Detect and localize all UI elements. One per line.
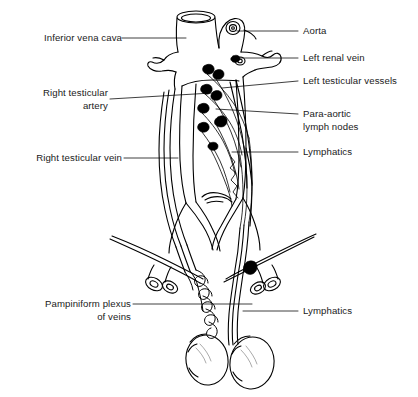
label-line: Aorta	[303, 24, 326, 37]
testes-shading	[196, 344, 257, 367]
label-line: artery	[8, 99, 108, 112]
testis-right	[227, 334, 278, 392]
label-left-renal-vein: Left renal vein	[303, 51, 365, 64]
label-line: Lymphatics	[303, 304, 352, 317]
label-line: lymph nodes	[303, 120, 359, 133]
label-line: Right testicular	[8, 86, 108, 99]
label-line: Lymphatics	[303, 145, 352, 158]
label-left-testicular-vessels: Left testicular vessels	[303, 74, 397, 87]
label-para-aortic-lymph-nodes: Para-aortic lymph nodes	[303, 107, 359, 133]
right-testicular-vein-a	[164, 90, 181, 246]
leader-para-aortic-lymph-nodes	[216, 109, 298, 114]
testis-left	[183, 332, 232, 387]
anatomical-figure-page: Inferior vena cava Right testicular arte…	[0, 0, 418, 397]
inguinal-ligaments	[110, 234, 316, 283]
left-renal-vein	[235, 51, 281, 77]
leader-right-testicular-artery	[110, 93, 212, 99]
label-right-testicular-vein: Right testicular vein	[8, 151, 122, 164]
label-line: Para-aortic	[303, 107, 359, 120]
right-testicular-vessels	[159, 89, 187, 247]
label-pampiniform-plexus-of-veins: Pampiniform plexus of veins	[8, 297, 131, 323]
label-line: Pampiniform plexus	[8, 297, 131, 310]
label-line: Left renal vein	[303, 51, 365, 64]
inguinal-ligament-left	[112, 236, 203, 279]
aorta	[219, 19, 256, 52]
lymph-node-groin-right	[243, 261, 257, 275]
label-lymphatics-lower: Lymphatics	[303, 304, 352, 317]
label-line: Right testicular vein	[8, 151, 122, 164]
leader-lines	[110, 31, 298, 311]
label-line: of veins	[8, 310, 131, 323]
leader-left-testicular-vessels	[222, 81, 298, 88]
label-inferior-vena-cava: Inferior vena cava	[8, 31, 122, 44]
label-line: Inferior vena cava	[8, 31, 122, 44]
label-line: Left testicular vessels	[303, 74, 397, 87]
label-lymphatics-upper: Lymphatics	[303, 145, 352, 158]
inferior-vena-cava	[148, 11, 219, 89]
label-aorta: Aorta	[303, 24, 326, 37]
label-right-testicular-artery: Right testicular artery	[8, 86, 108, 112]
